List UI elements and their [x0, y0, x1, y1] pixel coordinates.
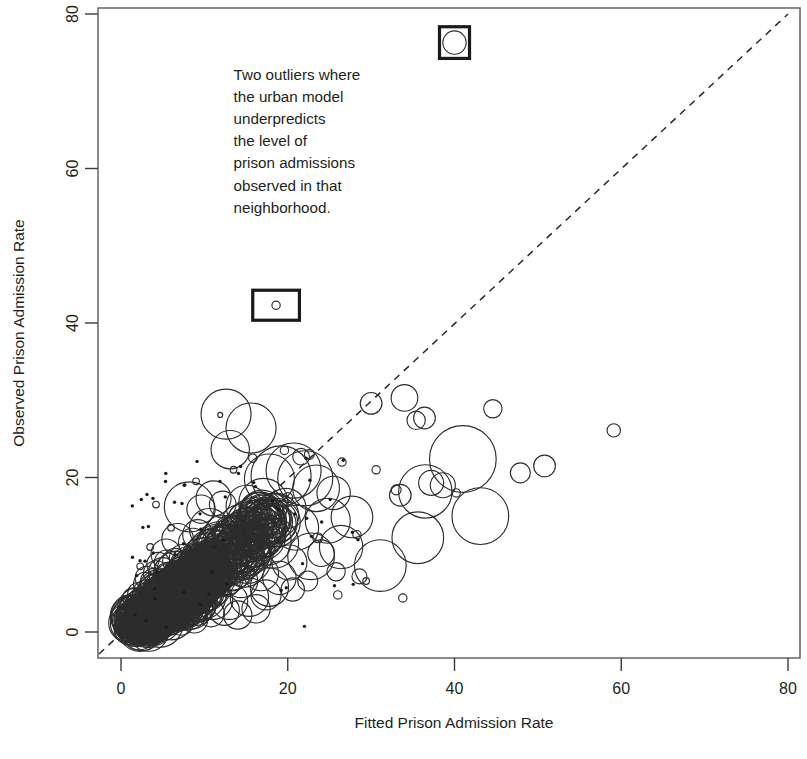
data-point-bubble [281, 578, 304, 601]
data-point-bubble [211, 431, 249, 469]
data-point-bubble [230, 466, 237, 473]
outlier-box-mid [253, 290, 300, 320]
data-point-dot [276, 508, 279, 511]
data-point-bubble [399, 594, 407, 602]
data-point-dot [182, 542, 185, 545]
plot-canvas: 020406080020406080 Two outliers wherethe… [0, 0, 807, 759]
x-tick-label: 40 [446, 680, 464, 697]
data-point-dot [164, 480, 167, 483]
data-point-bubble [452, 488, 509, 545]
data-point-bubble [319, 525, 362, 568]
data-point-bubble [317, 476, 350, 509]
data-point-dot [320, 520, 323, 523]
data-point-dot [285, 586, 288, 589]
data-point-dot [308, 479, 311, 482]
data-point-dot [301, 562, 304, 565]
data-point-dot [239, 465, 242, 468]
data-point-dot [152, 551, 155, 554]
data-point-dot [198, 512, 201, 515]
data-point-dot [153, 587, 156, 590]
data-point-dot [210, 570, 213, 573]
data-point-dot [237, 472, 240, 475]
data-point-dot [133, 613, 136, 616]
data-point-dot [279, 589, 282, 592]
data-point-dot [147, 525, 150, 528]
data-point-bubble [293, 465, 340, 512]
x-tick-label: 80 [779, 680, 797, 697]
data-point-bubble [392, 512, 444, 564]
data-point-bubble [308, 540, 335, 567]
data-point-dot [173, 500, 176, 503]
data-point-bubble [327, 563, 345, 581]
data-point-dot [180, 502, 183, 505]
data-point-dot [174, 554, 177, 557]
data-point-bubble [391, 385, 418, 412]
annotation-layer: Two outliers wherethe urban modelunderpr… [234, 66, 361, 216]
data-point-dot [310, 535, 313, 538]
data-point-dot [225, 582, 228, 585]
data-point-dot [151, 497, 154, 500]
data-point-bubble [534, 455, 556, 477]
y-tick-label: 20 [64, 469, 81, 487]
data-point-dot [303, 625, 306, 628]
data-point-bubble [484, 400, 502, 418]
data-point-bubble [338, 458, 346, 466]
data-point-dot [329, 498, 332, 501]
data-point-bubble [443, 31, 466, 54]
data-point-bubble [607, 424, 620, 437]
data-point-dot [293, 512, 296, 515]
data-point-dot [352, 583, 355, 586]
x-tick-label: 20 [279, 680, 297, 697]
y-tick-label: 40 [64, 314, 81, 332]
data-point-dot [224, 495, 227, 498]
data-point-dot [144, 619, 147, 622]
data-point-bubble [510, 463, 530, 483]
annotation-line: prison admissions [234, 154, 356, 171]
data-point-dot [143, 559, 146, 562]
scatter-plot-figure: 020406080020406080 Two outliers wherethe… [0, 0, 807, 759]
data-point-dot [274, 506, 277, 509]
data-point-dot [135, 574, 138, 577]
annotation-line: Two outliers where [234, 66, 361, 83]
data-point-dot [164, 472, 167, 475]
data-point-bubble [153, 501, 160, 508]
data-point-dot [254, 485, 257, 488]
data-point-dot [305, 517, 308, 520]
data-point-bubble [280, 446, 288, 454]
data-point-dot [333, 584, 336, 587]
data-point-dot [195, 460, 198, 463]
data-point-dot [141, 526, 144, 529]
data-point-dot [351, 531, 354, 534]
annotation-line: neighborhood. [234, 199, 331, 216]
data-point-dot [304, 457, 307, 460]
annotation-line: observed in that [234, 177, 343, 194]
y-tick-label: 0 [64, 627, 81, 636]
data-point-bubble [372, 466, 380, 474]
annotation-line: underpredicts [234, 110, 326, 127]
data-point-dot [145, 493, 148, 496]
data-point-dot [165, 626, 168, 629]
y-tick-label: 60 [64, 160, 81, 178]
data-point-dot [218, 480, 221, 483]
y-tick-label: 80 [64, 5, 81, 23]
y-axis-title: Observed Prison Admission Rate [10, 219, 27, 446]
data-point-bubble [429, 426, 496, 493]
data-point-dot [140, 498, 143, 501]
data-point-dot [207, 592, 210, 595]
data-point-dot [356, 538, 359, 541]
data-point-dot [183, 484, 186, 487]
data-point-dot [252, 481, 255, 484]
data-point-dot [182, 590, 185, 593]
annotation-line: the urban model [234, 88, 344, 105]
data-point-bubble [391, 485, 401, 495]
data-point-bubble [224, 601, 252, 629]
annotation-line: the level of [234, 132, 308, 149]
data-point-bubble [193, 478, 200, 485]
data-point-dot [155, 570, 158, 573]
data-point-dot [198, 603, 201, 606]
data-point-bubble [272, 301, 280, 309]
data-point-dot [131, 504, 134, 507]
data-point-bubble [218, 412, 223, 417]
data-point-dot [271, 499, 274, 502]
data-point-dot [199, 528, 202, 531]
